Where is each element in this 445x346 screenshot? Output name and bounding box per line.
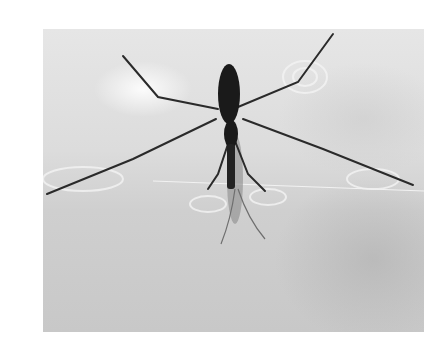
water-strider-photo <box>43 29 424 332</box>
water-strider-illustration <box>43 29 424 332</box>
strider-body <box>218 64 240 124</box>
